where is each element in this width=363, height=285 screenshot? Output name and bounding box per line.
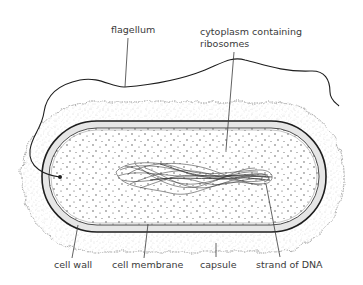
label-cell-membrane: cell membrane (112, 259, 183, 270)
label-cell-wall: cell wall (54, 259, 92, 270)
cell-membrane (49, 128, 319, 225)
label-capsule: capsule (200, 259, 237, 270)
bacterium-diagram: flagellum cytoplasm containing ribosomes… (0, 0, 363, 285)
label-flagellum: flagellum (111, 24, 155, 35)
label-cytoplasm-line1: cytoplasm containing (200, 26, 302, 37)
label-cytoplasm-line2: ribosomes (200, 38, 249, 49)
label-strand-of-dna: strand of DNA (256, 259, 323, 270)
flagellum-leader (125, 38, 128, 87)
